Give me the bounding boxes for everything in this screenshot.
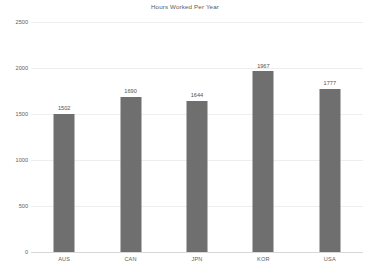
y-axis-tick-label: 2500 — [2, 19, 28, 25]
plot-area: 15021690164419671777 — [31, 22, 363, 252]
y-axis-tick-label: 2000 — [2, 65, 28, 71]
bar-group: 1502 — [31, 22, 97, 252]
bar-chart: Hours Worked Per Year 050010001500200025… — [0, 0, 370, 277]
y-axis-tick-label: 0 — [2, 249, 28, 255]
y-axis: 05001000150020002500 — [0, 22, 28, 252]
x-axis-tick-label-can: CAN — [124, 256, 136, 262]
bar-kor[interactable] — [253, 71, 274, 252]
bar-group: 1967 — [230, 22, 296, 252]
bar-value-label: 1644 — [191, 92, 203, 98]
bar-value-label: 1777 — [324, 80, 336, 86]
bar-aus[interactable] — [54, 114, 75, 252]
y-axis-tick-label: 1000 — [2, 157, 28, 163]
bar-usa[interactable] — [319, 89, 340, 252]
y-axis-tick-label: 1500 — [2, 111, 28, 117]
bar-group: 1690 — [97, 22, 163, 252]
bar-group: 1644 — [164, 22, 230, 252]
y-axis-tick-label: 500 — [2, 203, 28, 209]
x-axis: AUSCANJPNKORUSA — [31, 256, 363, 270]
x-axis-tick-label-usa: USA — [324, 256, 336, 262]
bar-can[interactable] — [120, 97, 141, 252]
x-axis-tick-label-aus: AUS — [58, 256, 70, 262]
x-axis-tick-label-jpn: JPN — [191, 256, 202, 262]
chart-title: Hours Worked Per Year — [0, 3, 370, 10]
bar-value-label: 1967 — [257, 63, 269, 69]
x-axis-tick-label-kor: KOR — [257, 256, 270, 262]
bar-jpn[interactable] — [186, 101, 207, 252]
bar-value-label: 1502 — [58, 105, 70, 111]
axis-baseline — [31, 252, 363, 253]
bar-group: 1777 — [297, 22, 363, 252]
bar-value-label: 1690 — [124, 88, 136, 94]
